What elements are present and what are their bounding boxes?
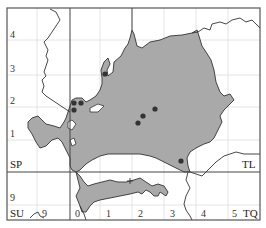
grid-square-label-sp: SP [10, 159, 22, 170]
record-dot[interactable] [152, 106, 157, 111]
record-dot[interactable] [135, 120, 140, 125]
record-dot[interactable] [140, 113, 145, 118]
x-tick-1: 1 [106, 209, 111, 219]
y-tick-2: 2 [10, 96, 15, 106]
record-dot[interactable] [71, 100, 76, 105]
y-tick-1: 1 [10, 129, 15, 139]
x-tick-0: 0 [75, 209, 80, 219]
y-tick-9: 9 [10, 193, 15, 203]
grid-square-label-tq: TQ [243, 208, 258, 219]
record-dot[interactable] [78, 100, 83, 105]
distribution-region [28, 30, 234, 212]
grid-square-label-su: SU [10, 208, 24, 219]
record-dot[interactable] [178, 158, 183, 163]
grid-square-label-tl: TL [242, 159, 255, 170]
x-tick-9: 9 [42, 209, 47, 219]
x-tick-5: 5 [232, 209, 237, 219]
x-tick-3: 3 [170, 209, 175, 219]
distribution-map [0, 0, 266, 228]
x-tick-2: 2 [138, 209, 143, 219]
y-tick-3: 3 [10, 64, 15, 74]
record-dot[interactable] [71, 107, 76, 112]
x-tick-4: 4 [201, 209, 206, 219]
record-dot[interactable] [102, 71, 107, 76]
y-tick-4: 4 [10, 30, 15, 40]
